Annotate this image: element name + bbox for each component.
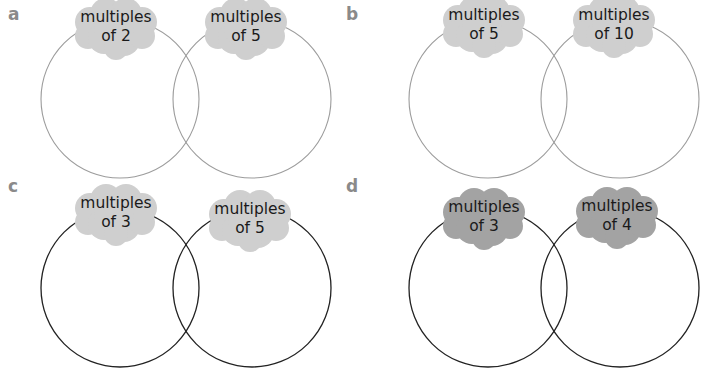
panel-label: c	[8, 176, 18, 196]
set-label: multiplesof 4	[572, 197, 662, 235]
set-label-line1: multiples	[201, 8, 291, 27]
set-label-line1: multiples	[71, 8, 161, 27]
set-label: multiplesof 3	[439, 198, 529, 236]
panel-label: b	[346, 4, 358, 24]
set-label-line2: of 5	[439, 25, 529, 44]
set-label: multiplesof 3	[71, 194, 161, 232]
set-label-line1: multiples	[439, 198, 529, 217]
set-label-line1: multiples	[71, 194, 161, 213]
set-label: multiplesof 2	[71, 8, 161, 46]
set-label-line1: multiples	[205, 200, 295, 219]
set-label: multiplesof 5	[439, 6, 529, 44]
set-label-line2: of 2	[71, 27, 161, 46]
set-label-line2: of 3	[439, 217, 529, 236]
set-label-line2: of 10	[569, 25, 659, 44]
set-label-line2: of 3	[71, 213, 161, 232]
set-label-line2: of 5	[201, 27, 291, 46]
panel-label: a	[8, 4, 19, 24]
set-label-line2: of 4	[572, 216, 662, 235]
set-label: multiplesof 5	[201, 8, 291, 46]
set-label: multiplesof 10	[569, 6, 659, 44]
set-label-line1: multiples	[439, 6, 529, 25]
set-label: multiplesof 5	[205, 200, 295, 238]
set-label-line1: multiples	[569, 6, 659, 25]
panel-label: d	[346, 176, 358, 196]
set-label-line1: multiples	[572, 197, 662, 216]
set-label-line2: of 5	[205, 219, 295, 238]
